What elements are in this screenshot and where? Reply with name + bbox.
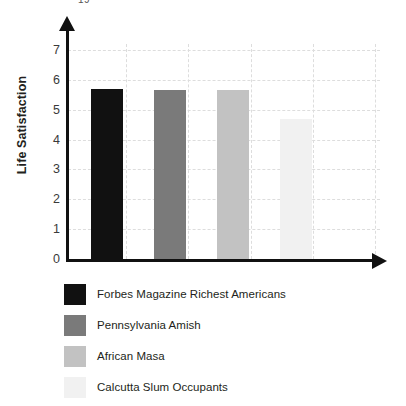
plot-area [68, 44, 380, 259]
y-axis-tick-labels: 01234567 [38, 44, 60, 259]
legend-item[interactable]: Pennsylvania Amish [64, 315, 394, 337]
bar-3 [217, 90, 249, 259]
bar-1 [91, 89, 123, 259]
y-tick-label-4: 4 [40, 134, 60, 147]
bar-chart-figure: 19 01234567 Life Satisfaction Forbes Mag… [0, 0, 406, 406]
y-axis-arrow-icon [59, 16, 75, 31]
bar-series [68, 44, 380, 259]
legend-label: Forbes Magazine Richest Americans [97, 288, 286, 300]
y-axis-line [66, 30, 69, 260]
legend-swatch-icon [64, 346, 86, 367]
y-tick-label-7: 7 [40, 44, 60, 57]
y-tick-label-3: 3 [40, 163, 60, 176]
x-axis-arrow-icon [372, 253, 387, 269]
legend-item[interactable]: Calcutta Slum Occupants [64, 377, 394, 399]
bar-4 [280, 119, 312, 259]
legend-swatch-icon [64, 315, 86, 336]
cropped-header-text: 19 [78, 0, 90, 3]
legend-swatch-icon [64, 377, 86, 398]
y-tick-label-1: 1 [40, 223, 60, 236]
legend-label: Calcutta Slum Occupants [97, 381, 228, 393]
legend-label: African Masa [97, 350, 165, 362]
y-tick-label-2: 2 [40, 193, 60, 206]
chart-legend: Forbes Magazine Richest AmericansPennsyl… [64, 284, 394, 406]
legend-swatch-icon [64, 284, 86, 305]
legend-label: Pennsylvania Amish [97, 319, 201, 331]
legend-item[interactable]: African Masa [64, 346, 394, 368]
bar-2 [154, 90, 186, 259]
y-axis-title: Life Satisfaction [15, 55, 29, 195]
legend-item[interactable]: Forbes Magazine Richest Americans [64, 284, 394, 306]
x-axis-line [66, 259, 374, 262]
y-tick-label-6: 6 [40, 74, 60, 87]
y-tick-label-0: 0 [40, 253, 60, 266]
y-tick-label-5: 5 [40, 104, 60, 117]
